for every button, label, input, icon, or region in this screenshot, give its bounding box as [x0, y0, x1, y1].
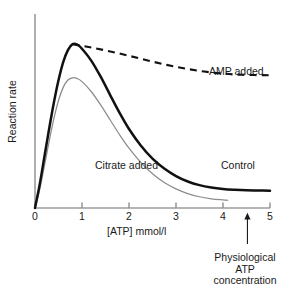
series-line-citrate — [35, 78, 228, 208]
x-tick-label-4: 4 — [216, 211, 230, 222]
series-label-citrate: Citrate added — [95, 160, 158, 171]
series-label-control: Control — [221, 160, 255, 171]
arrow-head-icon — [244, 213, 250, 220]
x-tick-label-1: 1 — [75, 211, 89, 222]
series-label-amp: AMP added — [209, 66, 264, 77]
x-tick-label-5: 5 — [263, 211, 277, 222]
annotation-line-2: ATP — [235, 263, 255, 275]
x-tick-label-3: 3 — [169, 211, 183, 222]
chart-figure: Reaction rate [ATP] mmol/l AMP added Cit… — [0, 0, 296, 300]
x-tick-label-2: 2 — [122, 211, 136, 222]
x-axis-ticks — [35, 203, 270, 209]
x-axis-label: [ATP] mmol/l — [107, 226, 166, 237]
physiological-atp-annotation: Physiological ATP concentration — [196, 252, 294, 287]
x-tick-label-0: 0 — [28, 211, 42, 222]
annotation-line-3: concentration — [213, 274, 276, 286]
y-axis-label: Reaction rate — [7, 77, 18, 147]
physiological-arrow — [244, 213, 250, 244]
annotation-line-1: Physiological — [214, 251, 275, 263]
